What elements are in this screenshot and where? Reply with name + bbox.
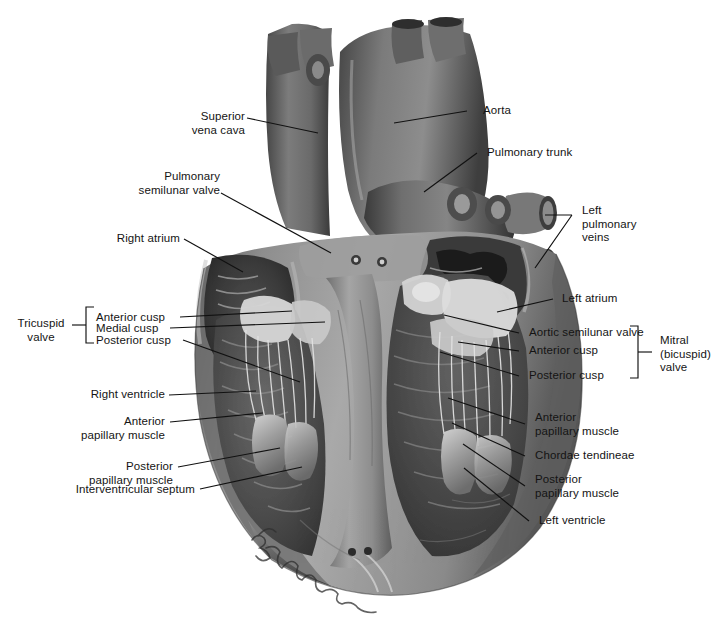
- label-right-atrium: Right atrium: [100, 232, 180, 246]
- label-interventricular-septum: Interventricular septum: [50, 483, 195, 497]
- label-mitral-valve: Mitral (bicuspid) valve: [660, 334, 724, 375]
- label-aortic-semilunar-valve: Aortic semilunar valve: [529, 326, 639, 340]
- label-right-ventricle: Right ventricle: [65, 388, 165, 402]
- label-anterior-cusp-right: Anterior cusp: [529, 344, 629, 358]
- label-superior-vena-cava: Superior vena cava: [120, 110, 245, 137]
- label-left-pulmonary-veins: Left pulmonary veins: [582, 204, 672, 245]
- label-left-ventricle: Left ventricle: [539, 514, 639, 528]
- label-posterior-cusp-right: Posterior cusp: [529, 369, 629, 383]
- label-chordae-tendineae: Chordae tendineae: [535, 449, 665, 463]
- anterior-papillary-muscle-left-ventricle: [441, 429, 478, 495]
- label-pulmonary-semilunar-valve: Pulmonary semilunar valve: [95, 170, 220, 197]
- heart-anatomy-figure: Superior vena cava Pulmonary semilunar v…: [0, 0, 727, 631]
- label-posterior-cusp-left: Posterior cusp: [96, 334, 186, 348]
- label-pulmonary-trunk: Pulmonary trunk: [487, 146, 617, 160]
- label-tricuspid-valve: Tricuspid valve: [12, 317, 70, 344]
- label-posterior-papillary-muscle-right: Posterior papillary muscle: [535, 473, 647, 500]
- label-anterior-papillary-muscle-right: Anterior papillary muscle: [535, 411, 647, 438]
- label-left-atrium: Left atrium: [562, 292, 652, 306]
- label-anterior-papillary-muscle-left: Anterior papillary muscle: [55, 415, 165, 442]
- posterior-papillary-muscle-right-ventricle: [284, 422, 318, 481]
- anterior-papillary-muscle-right-ventricle: [252, 414, 288, 476]
- label-aorta: Aorta: [483, 104, 573, 118]
